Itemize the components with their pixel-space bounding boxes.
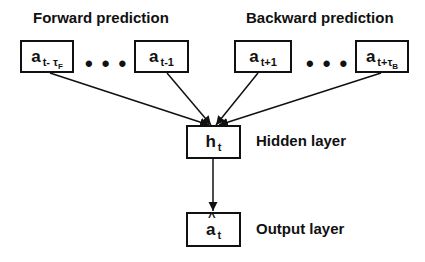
input-node-t-plus-1: at+1 [234,40,292,73]
forward-prediction-title: Forward prediction [33,9,169,26]
node-symbol: a [366,47,375,67]
hidden-layer-label: Hidden layer [256,132,346,149]
output-layer-label: Output layer [256,220,344,237]
input-node-t-plus-tau-b: at+τB [355,40,409,73]
hidden-node: ht [186,125,241,159]
ellipsis-backward: ••• [306,51,356,77]
node-subscript: t+1 [261,56,277,68]
node-symbol: a [31,47,40,67]
output-node: at [186,212,241,247]
ellipsis-forward: ••• [85,51,135,77]
backward-prediction-title: Backward prediction [246,9,394,26]
node-subscript: t+τB [377,56,398,68]
node-symbol: a [249,47,258,67]
node-subscript: t-1 [161,56,174,68]
input-node-t-minus-1: at-1 [134,40,189,73]
node-subscript: t [217,229,221,241]
node-subscript: t- τF [43,56,63,68]
node-subscript: t [218,141,222,153]
hat-symbol: a [206,220,215,240]
input-node-t-minus-tau-f: at- τF [20,40,74,73]
node-symbol: a [149,47,158,67]
node-symbol: h [205,132,215,152]
